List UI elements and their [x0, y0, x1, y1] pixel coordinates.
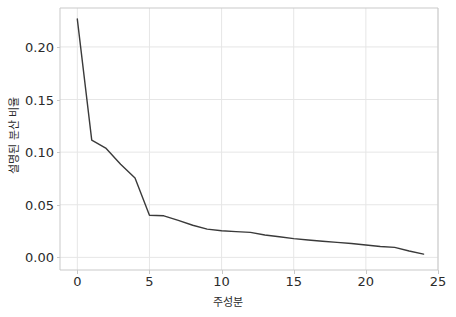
y-tick-mark [57, 47, 61, 48]
x-tick-mark [149, 270, 150, 274]
y-tick-label: 0.15 [0, 92, 54, 107]
x-tick-label: 20 [358, 274, 375, 289]
y-tick-label: 0.10 [0, 145, 54, 160]
y-tick-label: 0.00 [0, 250, 54, 265]
x-tick-mark [222, 270, 223, 274]
y-tick-mark [57, 257, 61, 258]
y-tick-label: 0.05 [0, 197, 54, 212]
y-tick-label: 0.20 [0, 39, 54, 54]
data-line-layer [60, 8, 438, 270]
x-tick-mark [438, 270, 439, 274]
x-tick-label: 25 [430, 274, 447, 289]
x-tick-mark [77, 270, 78, 274]
explained-variance-line [77, 19, 423, 254]
plot-area [60, 8, 438, 270]
y-tick-mark [57, 100, 61, 101]
x-tick-label: 10 [213, 274, 230, 289]
x-tick-mark [294, 270, 295, 274]
y-tick-mark [57, 152, 61, 153]
x-tick-label: 5 [145, 274, 153, 289]
x-axis-label: 주성분 [0, 293, 456, 309]
x-tick-mark [366, 270, 367, 274]
y-tick-mark [57, 205, 61, 206]
y-axis-label: 설명된 분산 비율 [4, 97, 20, 174]
x-tick-label: 0 [73, 274, 81, 289]
scree-plot-figure: 설명된 분산 비율 0.000.050.100.150.20 051015202… [0, 0, 456, 317]
x-tick-label: 15 [285, 274, 302, 289]
